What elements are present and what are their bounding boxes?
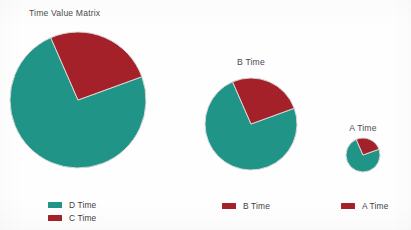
legend-label: C Time [69,213,96,223]
pie-a-time[interactable] [344,136,382,174]
legend-item[interactable]: A Time [341,200,389,211]
legend-item[interactable]: B Time [222,200,270,211]
legend-swatch-icon [48,202,62,208]
page-title: Time Value Matrix [29,8,100,18]
legend-a: A Time [341,200,389,213]
legend-b: B Time [222,200,270,213]
legend-item[interactable]: D Time [48,199,96,210]
chart-canvas: Time Value Matrix B Time A Time D TimeC … [0,0,411,230]
legend-label: A Time [362,201,389,211]
legend-swatch-icon [341,203,355,209]
legend-swatch-icon [222,203,236,209]
legend-label: D Time [69,200,96,210]
pie-b-time[interactable] [203,76,299,172]
legend-label: B Time [243,201,270,211]
pie-label-a-time: A Time [333,123,393,133]
legend-item[interactable]: C Time [48,212,96,223]
legend-primary: D TimeC Time [48,199,96,225]
pie-label-b-time: B Time [221,57,281,67]
legend-swatch-icon [48,215,62,221]
pie-d-time[interactable] [8,30,148,170]
